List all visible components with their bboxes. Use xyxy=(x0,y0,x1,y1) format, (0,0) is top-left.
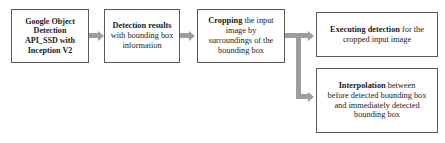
text-line-1-bold: Executing detection xyxy=(330,25,400,34)
process-box-text: Google Object Detection API_SSD with Inc… xyxy=(15,17,85,55)
text-line-1: Google Object xyxy=(25,17,75,26)
process-box-executing-detection[interactable]: Executing detection for the cropped inpu… xyxy=(316,12,438,57)
connector-branch-trunk xyxy=(296,33,301,99)
process-box-interpolation[interactable]: Interpolation between before detected bo… xyxy=(316,68,438,133)
process-box-text: Detection results with bounding box info… xyxy=(108,21,176,50)
text-line-2: Detection xyxy=(34,26,67,35)
text-line-1: Detection results xyxy=(112,21,171,30)
text-line-2: before detected bounding box xyxy=(328,91,427,100)
process-box-detection-results[interactable]: Detection results with bounding box info… xyxy=(104,9,180,63)
text-line-1-rest: for the xyxy=(400,25,424,34)
text-line-2: image by xyxy=(226,26,257,35)
connector-branch-lower-head-icon xyxy=(308,92,314,102)
text-line-3: API_SSD with xyxy=(25,36,75,45)
text-line-1-bold: Interpolation xyxy=(339,81,386,90)
connector-branch-upper-head-icon xyxy=(308,31,314,41)
text-line-2: with bounding box xyxy=(111,31,174,40)
text-line-3: and immediately detected xyxy=(334,101,419,110)
text-line-2: cropped input image xyxy=(343,35,411,44)
connector-arrow-2-head-icon xyxy=(189,31,195,41)
text-line-1-rest: the input xyxy=(242,16,273,25)
text-line-1-bold: Cropping xyxy=(208,16,242,25)
process-box-text: Executing detection for the cropped inpu… xyxy=(320,25,434,45)
text-line-4: bounding box xyxy=(354,110,400,119)
process-box-text: Cropping the input image by surroundings… xyxy=(201,16,281,55)
flowchart-canvas: Google Object Detection API_SSD with Inc… xyxy=(0,0,445,143)
text-line-4: Inception V2 xyxy=(28,46,73,55)
text-line-4: bounding box xyxy=(218,46,264,55)
process-box-cropping[interactable]: Cropping the input image by surroundings… xyxy=(197,9,285,63)
text-line-1-rest: between xyxy=(386,81,416,90)
text-line-3: information xyxy=(122,41,161,50)
process-box-text: Interpolation between before detected bo… xyxy=(320,81,434,120)
text-line-3: surroundings of the xyxy=(209,36,274,45)
process-box-google-object-detection[interactable]: Google Object Detection API_SSD with Inc… xyxy=(11,9,89,63)
